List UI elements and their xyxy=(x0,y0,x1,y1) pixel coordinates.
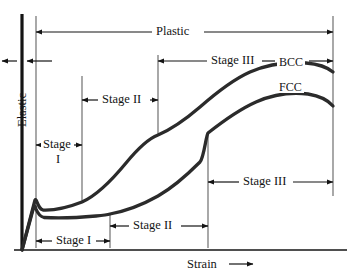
label-plastic: Plastic xyxy=(154,25,191,38)
label-bcc-curve: BCC xyxy=(277,56,305,68)
figure-canvas: Plastic Stage III BCC FCC Stage II Stage… xyxy=(0,0,353,279)
label-stage-two-lower: Stage II xyxy=(131,219,174,232)
label-stage-two-upper: Stage II xyxy=(100,93,143,106)
label-stage-three-lower: Stage III xyxy=(241,175,288,188)
label-stage-one-lower: Stage I xyxy=(54,234,93,247)
label-stage-three-upper: Stage III xyxy=(209,54,256,67)
guide-lines xyxy=(36,16,333,248)
curve-fcc xyxy=(22,93,333,250)
label-stage-one-upper-numeral: I xyxy=(56,153,60,166)
label-stage-one-upper: Stage xyxy=(41,138,73,151)
axis-label-elastic: Elastic xyxy=(15,93,30,127)
axis-label-strain: Strain xyxy=(187,258,217,271)
label-fcc-curve: FCC xyxy=(277,81,304,93)
